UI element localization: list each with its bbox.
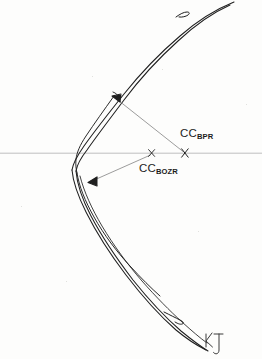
lens-back-surface-curve-lower: [76, 171, 208, 351]
lens-front-surface-curve-lower: [72, 170, 206, 350]
lens-front-surface-curve: [72, 2, 234, 170]
paper-speck: [198, 231, 199, 232]
lens-peripheral-junction-upper: [176, 12, 189, 17]
artist-signature-mark: [206, 333, 223, 354]
paper-speck: [66, 281, 67, 282]
paper-speck: [246, 104, 247, 105]
label-cc-bpr-subscript: BPR: [197, 132, 213, 141]
label-cc-bozr-base: CC: [139, 162, 156, 174]
label-cc-bpr-base: CC: [180, 127, 197, 139]
lens-optic-zone-curve-upper: [76, 96, 114, 173]
label-cc-bozr: CCBOZR: [139, 163, 178, 175]
lens-back-surface-curve-upper: [76, 5, 230, 171]
paper-speck: [162, 69, 163, 70]
paper-speck: [21, 206, 22, 207]
figure-canvas: CCBPR CCBOZR: [0, 0, 262, 359]
lens-optic-zone-curve-lower: [77, 173, 160, 296]
label-cc-bozr-subscript: BOZR: [156, 167, 178, 176]
lens-cross-section-drawing: [0, 0, 262, 359]
label-cc-bpr: CCBPR: [180, 128, 213, 140]
lens-inner-thickness-line: [80, 176, 207, 343]
radius-leader-bpr: [116, 99, 183, 152]
paper-speck: [92, 76, 93, 77]
